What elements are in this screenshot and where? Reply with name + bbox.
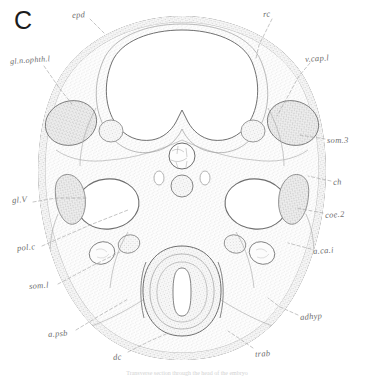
label-v-cap-l: v.cap.l: [305, 53, 330, 63]
label-pol-c: pol.c: [17, 242, 36, 252]
label-trab: trab: [255, 349, 271, 359]
accessory-vesicle-right: [200, 171, 210, 185]
figure-plate: C epdrcv.cap.lgl.n.ophth.lsom.3chgl.Vcoe…: [0, 0, 365, 377]
label-gl-v: gl.V: [12, 195, 28, 205]
label-som-3: som.3: [327, 136, 349, 145]
label-a-psb: a.psb: [48, 329, 68, 339]
hypophysis-lumen: [173, 268, 191, 316]
label-coe-2: coe.2: [325, 210, 345, 220]
somite-3-vesicle-right: [241, 120, 265, 142]
leader-epd: [90, 19, 104, 33]
label-som-l: som.l: [29, 281, 49, 291]
polar-vesicle: [171, 175, 193, 197]
accessory-vesicle-left: [154, 171, 164, 185]
label-ch: ch: [333, 177, 342, 186]
section-body: [36, 14, 328, 362]
label-dc: dc: [113, 352, 122, 361]
somite-vesicle-left: [99, 120, 123, 142]
label-adhyp: adhyp: [300, 311, 323, 321]
label-epd: epd: [72, 10, 86, 19]
figure-letter: C: [14, 8, 33, 33]
label-a-ca-i: a.ca.i: [313, 246, 334, 256]
notochord: [169, 143, 195, 169]
label-rc: rc: [263, 9, 271, 18]
figure-caption: Transverse section through the head of t…: [22, 370, 352, 377]
